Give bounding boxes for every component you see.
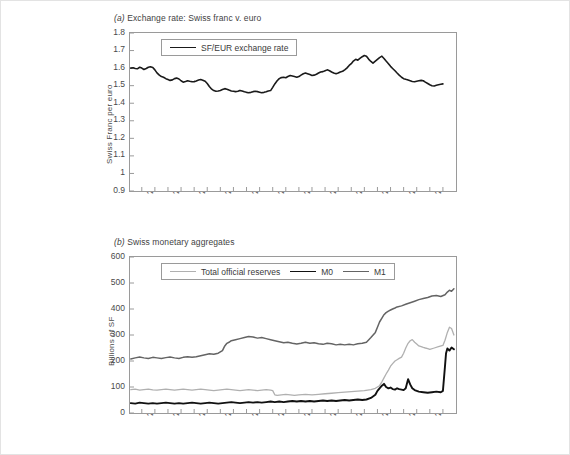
legend-item[interactable]: M1	[343, 267, 386, 277]
ytick-label: 500	[83, 277, 125, 287]
figure-page: (a) Exchange rate: Swiss franc v. euro S…	[0, 0, 570, 455]
panel-a-legend: SF/EUR exchange rate	[161, 39, 297, 56]
panel-b-title: (b) Swiss monetary aggregates	[114, 237, 235, 247]
ytick-label: 1.8	[83, 27, 125, 37]
panel-a-plot-area	[129, 32, 457, 192]
ytick-label: 200	[83, 355, 125, 365]
legend-label: M1	[374, 267, 386, 277]
legend-item[interactable]: M0	[290, 267, 333, 277]
legend-swatch-icon	[170, 47, 196, 49]
legend-label: SF/EUR exchange rate	[201, 43, 288, 53]
ytick-label: 400	[83, 303, 125, 313]
panel-b-lines	[130, 257, 456, 413]
legend-swatch-icon	[170, 271, 196, 272]
ytick-label: 1.5	[83, 79, 125, 89]
series-line	[131, 327, 454, 395]
ytick-label: 0	[83, 407, 125, 417]
panel-a-title-prefix: (a)	[114, 13, 125, 23]
ytick-label: 300	[83, 329, 125, 339]
panel-a-title: (a) Exchange rate: Swiss franc v. euro	[114, 13, 261, 23]
ytick-label: 1	[83, 167, 125, 177]
ytick-label: 1.4	[83, 97, 125, 107]
ytick-label: 600	[83, 251, 125, 261]
ytick-label: 1.2	[83, 132, 125, 142]
legend-item[interactable]: SF/EUR exchange rate	[170, 43, 288, 53]
legend-swatch-icon	[290, 271, 316, 273]
panel-b-legend: Total official reservesM0M1	[161, 263, 395, 280]
ytick-label: 0.9	[83, 185, 125, 195]
panel-b-title-prefix: (b)	[114, 237, 125, 247]
panel-a-title-text: Exchange rate: Swiss franc v. euro	[125, 13, 262, 23]
ytick-label: 1.6	[83, 62, 125, 72]
ytick-label: 1.1	[83, 149, 125, 159]
legend-label: Total official reserves	[201, 267, 280, 277]
panel-b-title-text: Swiss monetary aggregates	[125, 237, 235, 247]
legend-swatch-icon	[343, 271, 369, 273]
ytick-label: 1.7	[83, 44, 125, 54]
series-line	[131, 55, 443, 92]
legend-item[interactable]: Total official reserves	[170, 267, 280, 277]
legend-label: M0	[321, 267, 333, 277]
ytick-label: 100	[83, 381, 125, 391]
panel-a-lines	[130, 33, 456, 191]
ytick-label: 1.3	[83, 114, 125, 124]
